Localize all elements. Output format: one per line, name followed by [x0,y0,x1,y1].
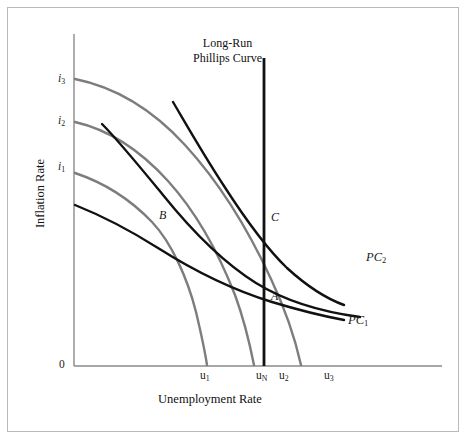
gray-curves [75,79,301,365]
y-tick-i1-sub: 1 [61,165,65,174]
x-tick-label-un: uN [256,369,267,383]
long-run-phillips-curve-title: Long-Run Phillips Curve [193,36,262,66]
curve-pc1 [173,102,344,305]
y-tick-i3-sub: 3 [61,77,65,86]
x-tick-label-u3: u3 [324,369,334,383]
curve-ad1 [75,173,207,365]
curve-label-pc2: PC2 [366,250,386,266]
lrpc-title-line2: Phillips Curve [193,51,262,66]
y-tick-i2-sub: 2 [61,119,65,128]
pc2-base: PC [366,250,382,264]
curve-ad3 [75,79,301,365]
origin-label: 0 [59,358,65,371]
figure-frame: Long-Run Phillips Curve Inflation Rate U… [0,0,466,439]
curve-label-pc1: PC1 [348,313,368,329]
point-label-c: C [271,211,279,225]
point-label-a: A [271,290,278,304]
curve-ad2 [75,122,254,365]
x-tick-u2-sub: 2 [285,374,289,383]
y-axis-title: Inflation Rate [33,124,48,264]
x-axis-title: Unemployment Rate [60,392,360,407]
curve-pc1-line [75,205,344,320]
point-label-b: B [159,209,166,223]
y-tick-label-i3: i3 [58,72,65,86]
x-tick-label-u1: u1 [200,369,210,383]
x-tick-label-u2: u2 [279,369,289,383]
lrpc-title-line1: Long-Run [193,36,262,51]
x-tick-u3-sub: 3 [330,374,334,383]
y-tick-label-i1: i1 [58,160,65,174]
pc1-sub: 1 [364,318,368,328]
y-tick-label-i2: i2 [58,114,65,128]
pc1-base: PC [348,313,364,327]
axis-lines [74,34,442,366]
x-tick-u1-sub: 1 [206,374,210,383]
x-tick-un-sub: N [262,374,268,383]
black-curves [75,102,360,320]
pc2-sub: 2 [382,255,386,265]
